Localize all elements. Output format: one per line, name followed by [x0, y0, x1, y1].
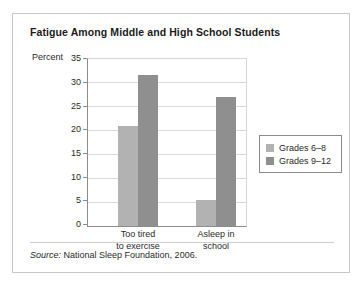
x-category-label-too-tired: Too tired to exercise — [93, 229, 183, 252]
bar-grades-9-12-too-tired — [138, 75, 158, 226]
x-category-label-asleep: Asleep in school — [171, 229, 261, 252]
y-tick-label-25: 25 — [55, 101, 81, 111]
y-tick-label-10: 10 — [55, 172, 81, 182]
legend-label-grades-9-12: Grades 9–12 — [279, 156, 331, 166]
y-tick-label-15: 15 — [55, 148, 81, 158]
y-tick-label-35: 35 — [55, 53, 81, 63]
legend-swatch-grades-6-8 — [266, 144, 274, 152]
x-category-label-too-tired-line1: Too tired — [93, 229, 183, 241]
chart-title: Fatigue Among Middle and High School Stu… — [30, 26, 280, 38]
source-text: National Sleep Foundation, 2006. — [64, 250, 198, 260]
bar-grades-9-12-asleep — [216, 97, 236, 226]
legend-item-grades-6-8: Grades 6–8 — [266, 141, 335, 154]
y-tick-label-30: 30 — [55, 77, 81, 87]
bar-grades-6-8-too-tired — [118, 126, 138, 226]
chart-legend: Grades 6–8 Grades 9–12 — [259, 135, 342, 173]
plot-area — [87, 58, 247, 227]
y-tick-label-0: 0 — [55, 219, 81, 229]
bar-grades-6-8-asleep — [196, 200, 216, 226]
figure-panel: Fatigue Among Middle and High School Stu… — [12, 13, 350, 273]
source-note: Source: National Sleep Foundation, 2006. — [30, 250, 197, 260]
legend-item-grades-9-12: Grades 9–12 — [266, 154, 335, 167]
gridline-30 — [88, 82, 246, 83]
legend-label-grades-6-8: Grades 6–8 — [279, 143, 326, 153]
y-tick-label-5: 5 — [55, 195, 81, 205]
source-prefix: Source: — [30, 250, 61, 260]
source-divider — [30, 242, 334, 243]
x-category-label-asleep-line1: Asleep in — [171, 229, 261, 241]
legend-swatch-grades-9-12 — [266, 157, 274, 165]
y-tick-label-20: 20 — [55, 124, 81, 134]
